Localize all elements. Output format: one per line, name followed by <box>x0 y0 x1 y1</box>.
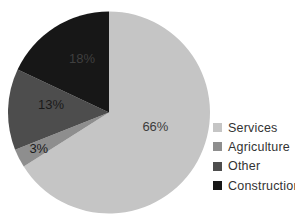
legend-label-construction: Construction <box>228 179 295 193</box>
legend-item-services: Services <box>213 118 295 137</box>
slice-label-other: 13% <box>38 97 64 112</box>
legend-item-other: Other <box>213 157 295 176</box>
slice-label-services: 66% <box>142 119 168 134</box>
slice-label-construction: 18% <box>69 51 95 66</box>
legend-label-agriculture: Agriculture <box>228 140 290 154</box>
slice-label-agriculture: 3% <box>29 141 48 156</box>
legend-label-other: Other <box>228 159 260 173</box>
legend-swatch-construction <box>213 181 222 190</box>
legend-item-agriculture: Agriculture <box>213 137 295 156</box>
legend-swatch-agriculture <box>213 142 222 151</box>
legend-swatch-services <box>213 123 222 132</box>
legend-item-construction: Construction <box>213 176 295 195</box>
pie-chart-figure: 66%3%13%18% ServicesAgricultureOtherCons… <box>0 0 295 224</box>
legend-label-services: Services <box>228 121 278 135</box>
legend: ServicesAgricultureOtherConstruction <box>213 118 295 195</box>
legend-swatch-other <box>213 162 222 171</box>
